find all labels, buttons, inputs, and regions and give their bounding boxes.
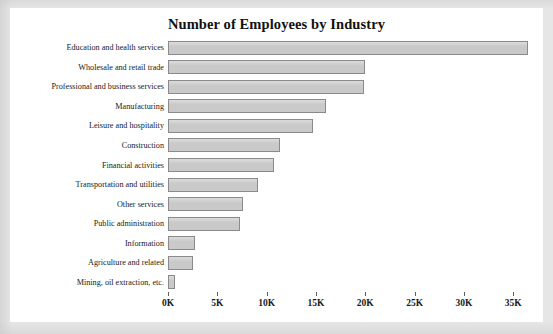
category-label: Manufacturing [10, 102, 164, 111]
x-tick-mark [513, 292, 514, 296]
category-label: Agriculture and related [10, 258, 164, 267]
bar[interactable] [168, 178, 258, 192]
category-label: Professional and business services [10, 82, 164, 91]
x-tick-mark [415, 292, 416, 296]
category-label: Mining, oil extraction, etc. [10, 278, 164, 287]
category-label: Construction [10, 141, 164, 150]
x-tick-mark [168, 292, 169, 296]
category-label: Other services [10, 200, 164, 209]
bar[interactable] [168, 197, 243, 211]
x-tick-label: 10K [258, 298, 275, 308]
x-tick-label: 20K [357, 298, 374, 308]
category-label: Leisure and hospitality [10, 121, 164, 130]
x-tick-mark [316, 292, 317, 296]
x-tick-label: 5K [211, 298, 223, 308]
category-label: Financial activities [10, 161, 164, 170]
chart-title: Number of Employees by Industry [10, 16, 543, 33]
bar[interactable] [168, 80, 364, 94]
x-tick-mark [217, 292, 218, 296]
category-label: Transportation and utilities [10, 180, 164, 189]
bar[interactable] [168, 99, 326, 113]
x-tick-label: 30K [455, 298, 472, 308]
category-label: Information [10, 239, 164, 248]
x-tick-label: 0K [162, 298, 174, 308]
category-label: Public administration [10, 219, 164, 228]
x-tick-label: 35K [505, 298, 522, 308]
bar[interactable] [168, 41, 528, 55]
page-background: Number of Employees by Industry Educatio… [0, 0, 553, 334]
chart-panel: Number of Employees by Industry Educatio… [10, 8, 543, 322]
category-label: Wholesale and retail trade [10, 63, 164, 72]
x-axis: 0K5K10K15K20K25K30K35K [168, 292, 543, 322]
x-tick-label: 25K [406, 298, 423, 308]
plot-area [168, 38, 533, 292]
bar[interactable] [168, 236, 195, 250]
bar[interactable] [168, 138, 280, 152]
x-tick-mark [267, 292, 268, 296]
bar[interactable] [168, 119, 313, 133]
bar[interactable] [168, 217, 240, 231]
bar[interactable] [168, 256, 193, 270]
bar[interactable] [168, 60, 365, 74]
x-tick-mark [464, 292, 465, 296]
x-tick-label: 15K [308, 298, 325, 308]
x-tick-mark [365, 292, 366, 296]
category-axis: Education and health servicesWholesale a… [10, 38, 168, 292]
bar[interactable] [168, 158, 274, 172]
category-label: Education and health services [10, 43, 164, 52]
bar[interactable] [168, 275, 175, 289]
